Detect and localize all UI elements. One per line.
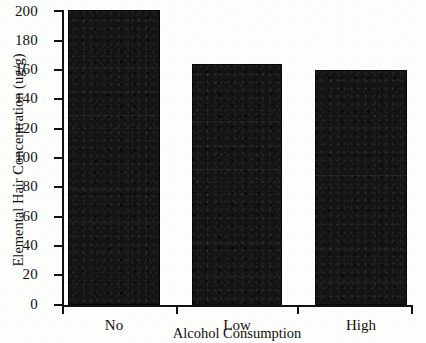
bar-high[interactable] bbox=[315, 70, 407, 305]
plot-area: 0 20 40 60 80 100 120 140 160 180 200 bbox=[62, 11, 412, 305]
y-axis-tick-160 bbox=[54, 69, 63, 71]
y-axis-title: Elemental Hair Concentration (ug/g) bbox=[10, 10, 26, 310]
y-axis-tick-100 bbox=[54, 157, 63, 159]
y-axis-tick-200 bbox=[54, 10, 63, 12]
y-axis-tick-140 bbox=[54, 98, 63, 100]
x-axis-tick-1 bbox=[176, 305, 178, 314]
y-axis-tick-40 bbox=[54, 245, 63, 247]
bar-chart-figure: 0 20 40 60 80 100 120 140 160 180 200 bbox=[0, 0, 426, 343]
y-axis-tick-60 bbox=[54, 216, 63, 218]
y-axis-tick-20 bbox=[54, 274, 63, 276]
x-axis-tick-left bbox=[62, 305, 64, 314]
x-axis-title: Alcohol Consumption bbox=[62, 325, 412, 341]
bar-low[interactable] bbox=[192, 64, 282, 305]
y-axis-tick-80 bbox=[54, 186, 63, 188]
x-axis-tick-right bbox=[411, 305, 413, 314]
y-axis-tick-120 bbox=[54, 128, 63, 130]
x-axis-line bbox=[62, 305, 413, 307]
bar-no[interactable] bbox=[68, 10, 160, 305]
x-axis-tick-2 bbox=[297, 305, 299, 314]
y-axis-tick-180 bbox=[54, 40, 63, 42]
